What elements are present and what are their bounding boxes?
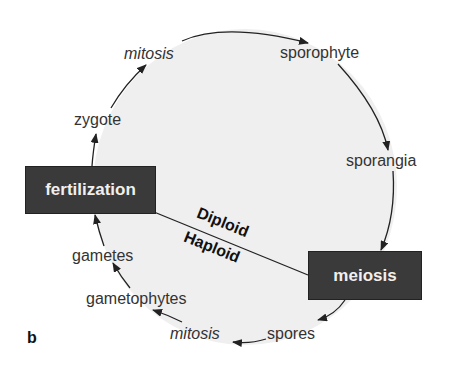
zygote-label: zygote (74, 112, 121, 128)
spores-label: spores (267, 326, 315, 342)
sporangia-label: sporangia (346, 153, 416, 169)
gametes-label: gametes (72, 248, 133, 264)
fertilization-box: fertilization (25, 166, 156, 214)
mitosis-bottom-label: mitosis (170, 326, 220, 342)
meiosis-box: meiosis (308, 251, 422, 300)
sporophyte-label: sporophyte (280, 45, 359, 61)
fertilization-label: fertilization (45, 180, 136, 200)
gametophytes-label: gametophytes (86, 291, 187, 307)
panel-label: b (27, 329, 37, 347)
meiosis-label: meiosis (333, 266, 396, 286)
mitosis-top-label: mitosis (124, 46, 174, 62)
